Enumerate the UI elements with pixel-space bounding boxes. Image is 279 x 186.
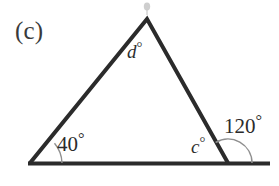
angle-120-degree-symbol: ° bbox=[256, 111, 263, 130]
angle-d-variable: d bbox=[127, 41, 137, 62]
angle-label-120: 120° bbox=[224, 113, 262, 137]
angle-label-d: d° bbox=[127, 40, 142, 61]
angle-d-degree-symbol: ° bbox=[137, 39, 143, 55]
angle-label-c: c° bbox=[191, 135, 205, 156]
angle-c-degree-symbol: ° bbox=[199, 134, 205, 150]
part-label: (c) bbox=[15, 18, 43, 43]
smudge-artifact bbox=[144, 3, 150, 16]
angle-label-40: 40° bbox=[57, 131, 85, 155]
angle-40-degree-symbol: ° bbox=[78, 129, 85, 148]
angle-40-value: 40 bbox=[57, 132, 78, 156]
geometry-figure: (c) d° 40° c° 120° bbox=[0, 0, 279, 186]
angle-120-value: 120 bbox=[224, 114, 256, 138]
